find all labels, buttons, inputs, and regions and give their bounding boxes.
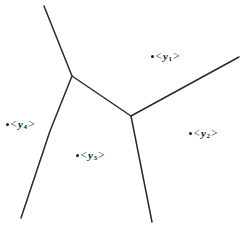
bullet-dot-icon — [151, 55, 154, 58]
symbol-y: y — [163, 51, 168, 62]
angle-bracket-open: < — [194, 128, 201, 140]
angle-bracket-open: < — [81, 150, 88, 162]
angle-bracket-open: < — [11, 119, 18, 131]
symbol-y: y — [18, 119, 23, 130]
label-y3: < y 3 > — [76, 150, 105, 162]
label-y2: < y 2 > — [189, 128, 218, 140]
figure-canvas: < y 1 > < y 2 > < y 3 > < y 4 > — [0, 0, 242, 226]
bullet-dot-icon — [76, 154, 79, 157]
label-y4: < y 4 > — [6, 119, 35, 131]
bullet-dot-icon — [189, 132, 192, 135]
figure-background — [0, 0, 242, 226]
subscript-index: 1 — [168, 56, 172, 63]
subscript-index: 3 — [93, 155, 97, 162]
label-y1: < y 1 > — [151, 51, 180, 63]
bullet-dot-icon — [6, 123, 9, 126]
angle-bracket-close: > — [28, 119, 35, 131]
angle-bracket-close: > — [211, 128, 218, 140]
angle-bracket-close: > — [173, 51, 180, 63]
symbol-y: y — [201, 128, 206, 139]
angle-bracket-close: > — [98, 150, 105, 162]
symbol-y: y — [88, 150, 93, 161]
angle-bracket-open: < — [156, 51, 163, 63]
subscript-index: 4 — [23, 124, 27, 131]
subscript-index: 2 — [206, 133, 210, 140]
tree-diagram-svg — [0, 0, 242, 226]
